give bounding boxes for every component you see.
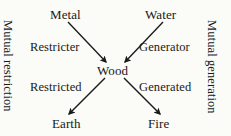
edge-label-generator: Generator [139, 41, 190, 54]
node-fire: Fire [148, 117, 169, 130]
five-elements-diagram: Metal Water Wood Earth Fire Restricter G… [0, 0, 231, 136]
node-earth: Earth [52, 117, 81, 130]
edge-label-restricted: Restricted [30, 81, 82, 94]
side-label-mutual-generation: Mutual generation [205, 20, 218, 114]
node-wood: Wood [97, 64, 128, 77]
side-label-mutual-restriction: Mutual restriction [1, 20, 14, 112]
node-water: Water [145, 8, 176, 21]
edge-label-generated: Generated [139, 81, 191, 94]
node-metal: Metal [50, 8, 81, 21]
edge-label-restricter: Restricter [30, 41, 80, 54]
